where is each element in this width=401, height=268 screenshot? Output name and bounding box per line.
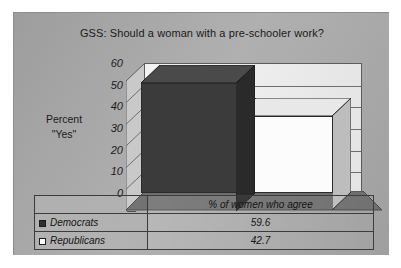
y-tick-label-50: 50 xyxy=(93,79,123,91)
chart-title: GSS: Should a woman with a pre-schooler … xyxy=(14,27,390,39)
filled-square-icon xyxy=(39,220,46,227)
open-square-icon xyxy=(39,238,46,245)
bar-democrats-front[interactable] xyxy=(141,83,237,193)
table-row[interactable]: Democrats 59.6 xyxy=(35,214,374,232)
legend-label-republicans: Republicans xyxy=(50,235,105,246)
legend-cell-republicans[interactable]: Republicans xyxy=(35,232,148,250)
chart-panel[interactable]: GSS: Should a woman with a pre-schooler … xyxy=(13,12,389,255)
table-header-value-column: % of women who agree xyxy=(148,196,374,214)
data-table[interactable]: % of women who agree Democrats 59.6 Repu… xyxy=(34,195,374,250)
legend-cell-democrats[interactable]: Democrats xyxy=(35,214,148,232)
bar-democrats-side xyxy=(236,65,255,212)
plot-area[interactable]: 0 10 20 30 40 50 60 xyxy=(126,63,381,208)
table-header-row: % of women who agree xyxy=(35,196,374,214)
y-tick-label-30: 30 xyxy=(93,122,123,134)
screenshot-root: GSS: Should a woman with a pre-schooler … xyxy=(0,0,401,268)
y-tick-label-40: 40 xyxy=(93,100,123,112)
value-republicans: 42.7 xyxy=(148,232,374,250)
table-row[interactable]: Republicans 42.7 xyxy=(35,232,374,250)
legend-label-democrats: Democrats xyxy=(50,217,98,228)
table-header-blank xyxy=(35,196,148,214)
y-tick-label-60: 60 xyxy=(93,57,123,69)
bar-democrats-top xyxy=(141,65,256,84)
y-tick-label-20: 20 xyxy=(93,144,123,156)
value-democrats: 59.6 xyxy=(148,214,374,232)
y-tick-label-10: 10 xyxy=(93,165,123,177)
